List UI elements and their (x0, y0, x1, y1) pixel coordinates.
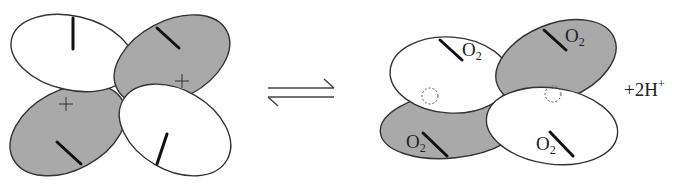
equilibrium-diagram: O2 O2 O2 O2 +2H+ (0, 0, 691, 185)
equilibrium-arrow-icon (268, 79, 334, 106)
product-label: +2H+ (624, 77, 665, 100)
left-orbital-group (0, 0, 247, 185)
